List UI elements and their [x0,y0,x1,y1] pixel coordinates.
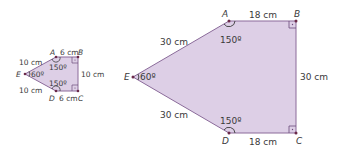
point-d [228,132,231,135]
diagram-canvas: A B C D E 6 cm 10 cm 6 cm 10 cm 10 cm 15… [0,0,341,152]
point-e [24,73,27,76]
angle-label-e: 60º [140,72,156,82]
vertex-label-c: C [296,136,303,146]
vertex-label-c: C [78,94,84,103]
right-angle-dot-icon [292,129,293,130]
side-label-dc: 6 cm [59,94,78,103]
side-label-ed: 30 cm [160,110,188,120]
right-angle-dot-icon [292,24,293,25]
vertex-label-a: A [49,48,55,57]
vertex-label-b: B [78,48,83,57]
small-pentagon: A B C D E 6 cm 10 cm 6 cm 10 cm 10 cm 15… [16,48,104,103]
point-c [295,132,298,135]
angle-label-d: 150º [49,79,67,88]
point-c [77,90,80,93]
side-label-bc: 30 cm [300,72,328,82]
side-label-dc: 18 cm [249,137,277,147]
large-pentagon: A B C D E 18 cm 30 cm 18 cm 30 cm 30 cm … [124,9,328,147]
side-label-ea: 10 cm [19,58,42,67]
angle-label-a: 150º [49,63,67,72]
side-label-ab: 6 cm [60,48,79,57]
vertex-label-d: D [222,136,229,146]
point-a [228,20,231,23]
side-label-ab: 18 cm [249,10,277,20]
right-angle-dot-icon [74,59,75,60]
point-d [55,90,58,93]
point-b [295,20,298,23]
side-label-bc: 10 cm [81,70,104,79]
angle-label-d: 150º [220,116,241,126]
vertex-label-b: B [294,9,300,19]
side-label-ea: 30 cm [160,37,188,47]
large-pentagon-shape [133,21,296,133]
vertex-label-e: E [124,72,130,82]
angle-label-e: 60º [31,70,45,79]
side-label-ed: 10 cm [19,86,42,95]
angle-label-a: 150º [220,35,241,45]
vertex-label-e: E [16,70,21,79]
vertex-label-a: A [221,9,228,19]
point-e [132,76,135,79]
right-angle-dot-icon [74,87,75,88]
vertex-label-d: D [49,94,55,103]
